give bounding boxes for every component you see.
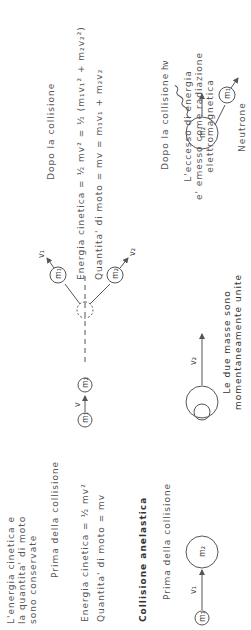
m2-label: m₂: [81, 377, 90, 388]
v-label: v: [73, 402, 82, 407]
m1-label: m₁: [54, 268, 63, 279]
m1-path: [65, 284, 80, 304]
merged-large-mass: [186, 386, 218, 418]
neutron-arrow: [231, 78, 238, 88]
m2-label: m₂: [111, 268, 120, 279]
neutron-path: [215, 105, 225, 125]
v2-label: v₂: [189, 357, 198, 365]
m2-label: m₂: [198, 127, 207, 138]
v1-arrow: [47, 258, 54, 268]
m2-label: m₂: [198, 546, 207, 557]
m2-path: [90, 284, 110, 304]
diagram-graphics: m₁ m₂ v m₁ m₂ v₁ v₂ m₁ m₂ v₁ v₂ m₂ m₁ hν: [0, 0, 251, 630]
v2-label: v₂: [128, 248, 137, 256]
m1-label: m₁: [81, 412, 90, 423]
v1-label: v₁: [37, 250, 46, 258]
m1-label: m₁: [198, 611, 207, 622]
photon-label: hν: [161, 60, 170, 70]
v2-arrow: [120, 258, 128, 268]
collision-diagram: L'energia cinetica e la quantita' di mot…: [0, 0, 251, 630]
photon-wave-icon: [173, 85, 191, 119]
v1-label: v₁: [189, 586, 198, 594]
m1-label: m₁: [223, 88, 232, 99]
